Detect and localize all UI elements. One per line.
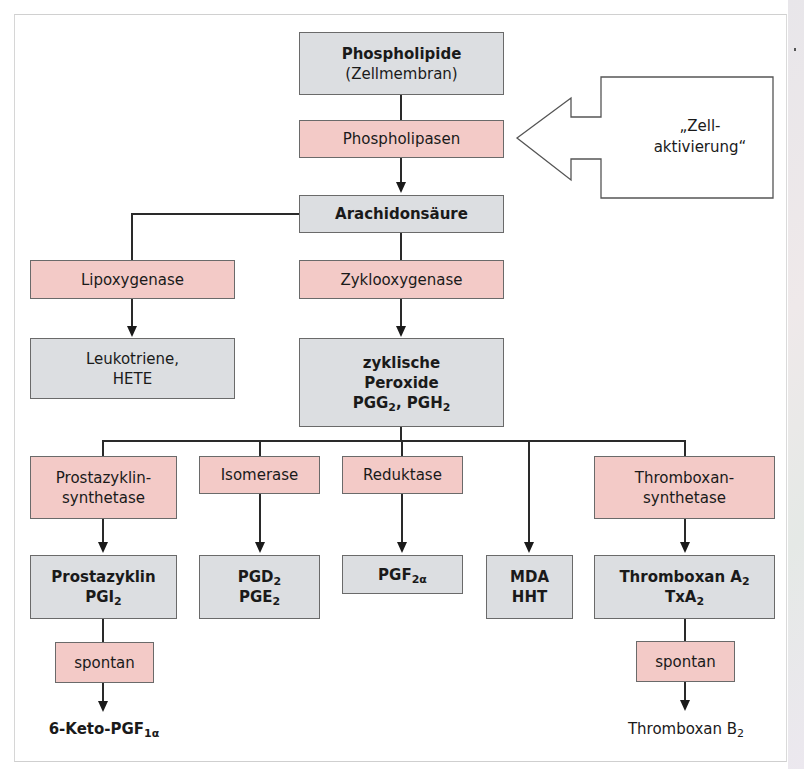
node-thromboxan-b2: Thromboxan B2 [612, 720, 760, 738]
connector [102, 440, 685, 442]
text: PGD [238, 568, 274, 586]
subscript: 2 [114, 595, 122, 608]
connector [684, 618, 686, 641]
connector [528, 440, 530, 544]
arrow-down-icon [396, 326, 406, 337]
node-line-1: Prostazyklin [51, 567, 155, 587]
node-line-2: TxA2 [665, 587, 704, 607]
node-thromboxan-synthetase: Thromboxan- synthetase [594, 456, 775, 519]
text: Thromboxan A [619, 568, 742, 586]
subscript: 1α [144, 727, 159, 740]
connector [684, 682, 686, 702]
node-zyklooxygenase: Zyklooxygenase [299, 260, 504, 299]
connector [102, 518, 104, 544]
node-phospholipide: Phospholipide (Zellmembran) [299, 32, 504, 95]
node-label: PGF2α [378, 565, 427, 585]
connector [684, 518, 686, 544]
node-leukotriene: Leukotriene, HETE [30, 338, 235, 399]
arrow-down-icon [255, 542, 265, 553]
connector [102, 440, 104, 456]
arrow-down-icon [397, 542, 407, 553]
connector [102, 683, 104, 703]
connector [401, 493, 403, 544]
node-6-keto-pgf1a: 6-Keto-PGF1α [42, 720, 166, 738]
node-label: spontan [655, 652, 716, 672]
node-thromboxan-a2: Thromboxan A2 TxA2 [594, 555, 775, 619]
node-line-1: Thromboxan A2 [619, 567, 749, 587]
text: TxA [665, 588, 697, 606]
subscript: 2α [412, 573, 427, 586]
node-reduktase: Reduktase [342, 456, 463, 494]
callout-label: „Zell- aktivierung“ [640, 116, 760, 158]
text: PGG [353, 394, 389, 412]
node-label: spontan [74, 653, 135, 673]
arrow-down-icon [98, 542, 108, 553]
connector [131, 213, 299, 215]
node-line-1: Thromboxan- [635, 468, 735, 488]
node-line-2: PGI2 [85, 587, 122, 607]
arrow-down-icon [680, 700, 690, 711]
callout-line-2: aktivierung“ [640, 137, 760, 158]
arrow-down-icon [396, 182, 406, 193]
arrow-down-icon [680, 542, 690, 553]
node-lipoxygenase: Lipoxygenase [30, 260, 235, 299]
node-line-3: PGG2, PGH2 [353, 393, 451, 413]
node-line-2: HHT [512, 587, 547, 607]
node-label: Lipoxygenase [81, 270, 184, 290]
arrow-down-icon [98, 701, 108, 712]
text: 6-Keto-PGF [49, 720, 144, 738]
node-line-1: MDA [510, 567, 549, 587]
node-arachidonsaeure: Arachidonsäure [299, 195, 504, 233]
node-line-2: HETE [113, 369, 152, 389]
text: PGE [239, 588, 273, 606]
connector [400, 94, 402, 120]
node-zyklische-peroxide: zyklische Peroxide PGG2, PGH2 [299, 338, 504, 427]
node-label: Phospholipasen [343, 129, 460, 149]
node-mda-hht: MDA HHT [486, 555, 573, 619]
subscript: 2 [388, 401, 396, 414]
node-isomerase: Isomerase [199, 456, 320, 494]
node-line-2: PGE2 [239, 587, 280, 607]
subscript: 2 [443, 401, 451, 414]
node-subtitle: (Zellmembran) [345, 64, 457, 84]
node-pgd-pge: PGD2 PGE2 [199, 555, 320, 619]
connector [131, 213, 133, 260]
node-line-2: synthetase [62, 488, 145, 508]
node-phospholipasen: Phospholipasen [299, 120, 504, 158]
node-title: Phospholipide [342, 44, 462, 64]
node-label: Arachidonsäure [335, 204, 468, 224]
node-spontan-right: spontan [636, 641, 735, 682]
text: , PGH [396, 394, 443, 412]
node-line-1: Leukotriene, [86, 349, 179, 369]
subscript: 2 [696, 595, 704, 608]
connector [400, 157, 402, 185]
node-label: Zyklooxygenase [340, 270, 462, 290]
connector [259, 440, 261, 456]
connector [400, 426, 402, 440]
subscript: 2 [737, 727, 744, 740]
node-prostazyklin: Prostazyklin PGI2 [30, 555, 177, 619]
connector [684, 440, 686, 456]
node-line-1: PGD2 [238, 567, 281, 587]
connector [259, 493, 261, 544]
text: PGI [85, 588, 114, 606]
node-line-2: Peroxide [364, 373, 439, 393]
node-line-1: Prostazyklin- [56, 468, 151, 488]
subscript: 2 [272, 595, 280, 608]
node-label: Reduktase [363, 465, 442, 485]
arrow-down-icon [524, 542, 534, 553]
connector [401, 440, 403, 456]
node-line-2: synthetase [643, 488, 726, 508]
connector [400, 232, 402, 260]
callout-line-1: „Zell- [640, 116, 760, 137]
subscript: 2 [742, 575, 750, 588]
node-spontan-left: spontan [55, 642, 154, 683]
connector [400, 298, 402, 328]
connector [102, 618, 104, 642]
node-label: Isomerase [221, 465, 299, 485]
text: Thromboxan B [628, 720, 737, 738]
arrow-down-icon [127, 326, 137, 337]
connector [131, 298, 133, 328]
node-prostazyklin-synthetase: Prostazyklin- synthetase [30, 456, 177, 519]
node-pgf2a: PGF2α [342, 555, 463, 594]
